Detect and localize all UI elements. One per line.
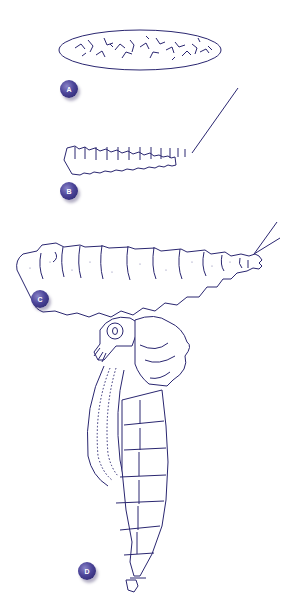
stage-label-badge-d: D xyxy=(78,562,96,580)
stage-label-badge-b: B xyxy=(60,182,78,200)
stage-label-badge-c: C xyxy=(31,290,49,308)
egg-drawing xyxy=(59,30,221,70)
young-larva-drawing xyxy=(64,88,238,175)
mature-larva-drawing xyxy=(17,222,280,317)
pupa-drawing xyxy=(87,316,189,592)
life-cycle-illustration: A B C D xyxy=(0,0,297,608)
stage-label-badge-a: A xyxy=(60,80,78,98)
